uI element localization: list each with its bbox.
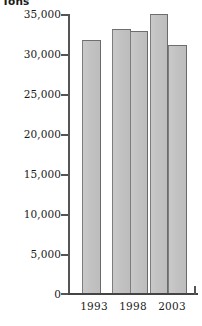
x-tick-label-1993: 1993 [74, 300, 114, 312]
y-tick-mark [61, 14, 69, 16]
bar [168, 45, 187, 294]
bar [150, 14, 168, 294]
bar [112, 29, 131, 294]
y-tick-mark [61, 94, 69, 96]
y-tick-mark [61, 54, 69, 56]
y-tick-label: 35,000 [24, 8, 61, 20]
y-tick-mark [61, 134, 69, 136]
y-tick-label: 20,000 [24, 128, 61, 140]
x-tick-label-1998: 1998 [113, 300, 153, 312]
y-tick-mark [61, 214, 69, 216]
y-tick-label: 30,000 [24, 48, 61, 60]
y-axis-tick-labels: 35,000 30,000 25,000 20,000 15,000 10,00… [0, 0, 61, 326]
y-tick-label: 10,000 [24, 208, 61, 220]
x-tick-label-2003: 2003 [152, 300, 192, 312]
y-axis-line [68, 14, 70, 295]
y-tick-label: 25,000 [24, 88, 61, 100]
bar [82, 40, 101, 294]
y-tick-label: 0 [54, 288, 61, 300]
y-tick-mark [61, 174, 69, 176]
x-axis-end-tick [194, 286, 196, 295]
bar-chart: Tons 35,000 30,000 25,000 20,000 15,000 … [0, 0, 202, 326]
y-tick-label: 5,000 [30, 248, 61, 260]
x-axis-line [68, 293, 198, 295]
y-tick-mark [61, 254, 69, 256]
y-tick-label: 15,000 [24, 168, 61, 180]
bar [130, 31, 148, 294]
plot-area: 1993 1998 2003 [68, 0, 202, 326]
